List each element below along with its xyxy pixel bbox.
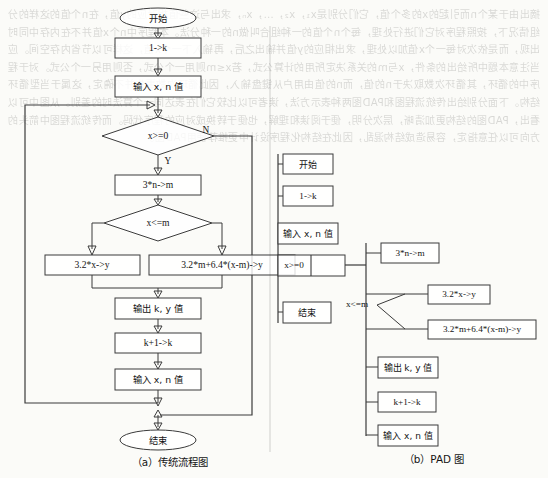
flowchart-node-compute-y-branch2-label: 3.2*m+6.4*(x-m)->y (181, 259, 263, 271)
flowchart-node-output: 输出 k, y 值 (115, 298, 201, 319)
pad-node-end: 结束 (283, 302, 331, 323)
flowchart-node-input-first-label: 输入 x, n 值 (133, 81, 183, 92)
flowchart-node-input-second-label: 输入 x, n 值 (133, 374, 183, 385)
flowchart-node-input-first: 输入 x, n 值 (115, 76, 201, 97)
flowchart-node-compute-y-branch1-label: 3.2*x->y (75, 259, 110, 270)
flowchart-node-end: 结束 (120, 430, 196, 450)
flowchart-node-condition-xlem-label: x<=m (146, 217, 170, 228)
flowchart-node-condition-xlem: x<=m (104, 205, 212, 241)
scanned-textbook-page: 摘出由于某个n而引起的x的多个值，它们分别是x₁，x₂，…，xₙ，求出与这些值相… (0, 0, 548, 478)
flowchart-node-increment-label: k+1->k (144, 337, 173, 348)
flowchart-branch-label-y: Y (165, 156, 172, 166)
flowchart-node-compute-y-branch1: 3.2*x->y (45, 255, 140, 275)
pad-node-start: 开始 (283, 154, 333, 174)
flowchart-node-compute-m-label: 3*n->m (143, 179, 174, 190)
pad-node-init-label: 1->k (299, 191, 317, 201)
pad-node-while-condition-label: x>=0 (284, 260, 304, 270)
flowchart-node-output-label: 输出 k, y 值 (133, 303, 183, 314)
algorithm-diagram-figure: 开始 1->k 输入 x, n 值 x>=0 N Y 3*n-> (0, 0, 548, 478)
pad-node-increment-label: k+1->k (393, 397, 421, 407)
pad-node-output-label: 输出 k, y 值 (384, 362, 433, 373)
pad-node-input-second-label: 输入 x, n 值 (383, 430, 432, 441)
pad-node-increment: k+1->k (378, 392, 436, 412)
pad-node-compute-m-label: 3*n->m (395, 248, 424, 258)
pad-node-input-first-label: 输入 x, n 值 (283, 228, 332, 239)
pad-node-compute-y-branch2-label: 3.2*m+6.4*(x-m)->y (443, 324, 522, 334)
flowchart-node-start-label: 开始 (149, 13, 167, 24)
flowchart-node-increment: k+1->k (115, 333, 201, 353)
flowchart-node-init: 1->k (115, 38, 201, 58)
flowchart-node-condition-xge0-label: x>=0 (148, 130, 169, 141)
pad-node-input-second: 输入 x, n 值 (378, 425, 438, 446)
pad-node-while-condition: x>=0 (278, 255, 345, 276)
flowchart-node-start: 开始 (120, 8, 196, 28)
flowchart-node-input-second: 输入 x, n 值 (115, 369, 201, 390)
pad-node-compute-y-branch1: 3.2*x->y (428, 285, 490, 304)
pad-node-init: 1->k (283, 186, 333, 206)
pad-node-compute-m: 3*n->m (381, 243, 439, 263)
pad-node-output: 输出 k, y 值 (378, 357, 438, 378)
pad-selector-label: x<=m (346, 299, 368, 309)
pad-node-start-label: 开始 (299, 159, 317, 170)
pad-node-compute-y-branch2: 3.2*m+6.4*(x-m)->y (428, 320, 536, 339)
pad-node-compute-y-branch1-label: 3.2*x->y (442, 289, 476, 299)
flowchart-caption: （a）传统流程图 (132, 456, 208, 468)
flowchart-node-init-label: 1->k (149, 42, 167, 53)
flowchart-node-end-label: 结束 (149, 435, 167, 446)
traditional-flowchart: 开始 1->k 输入 x, n 值 x>=0 N Y 3*n-> (25, 8, 295, 468)
flowchart-node-condition-xge0: x>=0 (102, 117, 214, 155)
flowchart-branch-label-n: N (203, 125, 210, 135)
pad-node-input-first: 输入 x, n 值 (278, 223, 338, 244)
flowchart-node-compute-y-branch2: 3.2*m+6.4*(x-m)->y (149, 255, 295, 275)
pad-caption: （b）PAD 图 (404, 453, 465, 465)
pad-diagram: 开始 1->k 输入 x, n 值 x>=0 结束 3* (278, 154, 536, 465)
pad-node-end-label: 结束 (298, 307, 316, 318)
flowchart-node-compute-m: 3*n->m (115, 175, 201, 195)
